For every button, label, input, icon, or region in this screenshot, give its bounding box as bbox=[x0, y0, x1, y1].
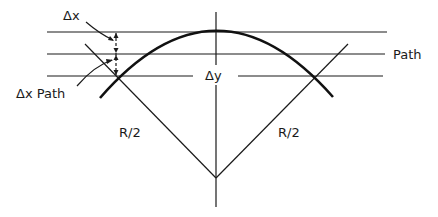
delta-x-leader-line bbox=[86, 22, 113, 40]
radius-left-label: R/2 bbox=[119, 125, 141, 140]
delta-x-label: Δx bbox=[63, 8, 80, 23]
delta-x-path-leader-line bbox=[77, 60, 112, 86]
delta-y-label: Δy bbox=[205, 68, 222, 83]
radius-right-label: R/2 bbox=[278, 125, 300, 140]
right-radius-line bbox=[216, 44, 348, 178]
delta-x-path-leader-arrowhead bbox=[106, 59, 113, 64]
path-geometry-diagram: Δx Δx Path Path Δy R/2 R/2 bbox=[0, 0, 438, 217]
arrowhead-up-mid bbox=[114, 55, 119, 60]
arrowhead-up-top bbox=[114, 33, 119, 38]
delta-x-leader-arrowhead bbox=[108, 36, 114, 41]
path-label: Path bbox=[393, 47, 422, 62]
delta-x-path-label: Δx Path bbox=[16, 86, 65, 101]
arrowhead-down-mid bbox=[114, 48, 119, 53]
left-radius-line bbox=[85, 44, 216, 178]
